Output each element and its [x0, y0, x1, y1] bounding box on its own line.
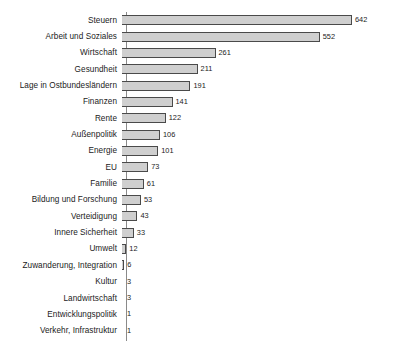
- bar-category-label: Landwirtschaft: [0, 294, 122, 303]
- bar-value-label: 3: [122, 294, 131, 302]
- bar-track: 1: [122, 306, 393, 322]
- bar-category-label: Entwicklungspolitik: [0, 310, 122, 319]
- bar-row: Familie61: [0, 175, 393, 191]
- bar-value-label: 6: [124, 261, 131, 269]
- bar: [122, 130, 160, 140]
- bar-track: 211: [122, 61, 393, 77]
- bar-value-label: 53: [141, 196, 152, 204]
- bar-track: 53: [122, 192, 393, 208]
- bar: [122, 97, 173, 107]
- bar-row: Landwirtschaft3: [0, 290, 393, 306]
- bar-category-label: Lage in Ostbundesländern: [0, 81, 122, 90]
- bar-category-label: Verteidigung: [0, 212, 122, 221]
- bar-category-label: Innere Sicherheit: [0, 228, 122, 237]
- bar-category-label: Wirtschaft: [0, 48, 122, 57]
- bar-category-label: Steuern: [0, 16, 122, 25]
- bar-track: 12: [122, 241, 393, 257]
- bar: [122, 228, 134, 238]
- bar-value-label: 141: [173, 98, 188, 106]
- bar-row: Entwicklungspolitik1: [0, 306, 393, 322]
- bar: [122, 48, 216, 58]
- bar-row: Finanzen141: [0, 94, 393, 110]
- bar-value-label: 1: [122, 327, 131, 335]
- bar-value-label: 61: [144, 180, 155, 188]
- bar-row: Lage in Ostbundesländern191: [0, 77, 393, 93]
- bar-track: 552: [122, 28, 393, 44]
- bar-track: 141: [122, 94, 393, 110]
- bar-category-label: Familie: [0, 179, 122, 188]
- bar: [122, 195, 141, 205]
- bar-track: 43: [122, 208, 393, 224]
- bar-row: Bildung und Forschung53: [0, 192, 393, 208]
- bar-row-list: Steuern642Arbeit und Soziales552Wirtscha…: [0, 12, 393, 339]
- bar-value-label: 261: [216, 49, 231, 57]
- bar-row: Umwelt12: [0, 241, 393, 257]
- bar-row: EU73: [0, 159, 393, 175]
- bar: [122, 162, 148, 172]
- bar-chart-plot-area: Steuern642Arbeit und Soziales552Wirtscha…: [0, 12, 393, 339]
- bar-category-label: Energie: [0, 146, 122, 155]
- bar-value-label: 1: [122, 310, 131, 318]
- bar: [122, 64, 198, 74]
- bar-track: 33: [122, 224, 393, 240]
- bar-category-label: Zuwanderung, Integration: [0, 261, 122, 270]
- bar-category-label: Verkehr, Infrastruktur: [0, 326, 122, 335]
- bar-category-label: Gesundheit: [0, 65, 122, 74]
- bar-category-label: Rente: [0, 114, 122, 123]
- bar: [122, 32, 320, 42]
- bar-row: Innere Sicherheit33: [0, 224, 393, 240]
- bar-row: Gesundheit211: [0, 61, 393, 77]
- bar-row: Zuwanderung, Integration6: [0, 257, 393, 273]
- bar-category-label: Außenpolitik: [0, 130, 122, 139]
- bar-track: 1: [122, 323, 393, 339]
- bar-category-label: Arbeit und Soziales: [0, 32, 122, 41]
- bar-row: Verteidigung43: [0, 208, 393, 224]
- bar-track: 191: [122, 77, 393, 93]
- bar-row: Energie101: [0, 143, 393, 159]
- bar: [122, 15, 352, 25]
- bar-track: 73: [122, 159, 393, 175]
- bar-track: 3: [122, 290, 393, 306]
- bar-track: 261: [122, 45, 393, 61]
- bar-row: Rente122: [0, 110, 393, 126]
- bar-value-label: 73: [148, 163, 159, 171]
- bar-row: Außenpolitik106: [0, 126, 393, 142]
- bar-category-label: Bildung und Forschung: [0, 195, 122, 204]
- bar-value-label: 106: [160, 131, 175, 139]
- bar-value-label: 552: [320, 33, 335, 41]
- bar: [122, 146, 158, 156]
- bar-category-label: EU: [0, 163, 122, 172]
- bar: [122, 211, 137, 221]
- bar-row: Verkehr, Infrastruktur1: [0, 323, 393, 339]
- bar-value-label: 191: [190, 82, 205, 90]
- bar-category-label: Umwelt: [0, 244, 122, 253]
- bar-value-label: 211: [198, 65, 213, 73]
- bar-value-label: 12: [126, 245, 137, 253]
- bar-value-label: 122: [166, 114, 181, 122]
- bar-category-label: Kultur: [0, 277, 122, 286]
- bar-track: 6: [122, 257, 393, 273]
- bar-track: 61: [122, 175, 393, 191]
- bar-value-label: 101: [158, 147, 173, 155]
- bar-row: Steuern642: [0, 12, 393, 28]
- bar-value-label: 642: [352, 16, 367, 24]
- bar-track: 106: [122, 126, 393, 142]
- bar-category-label: Finanzen: [0, 97, 122, 106]
- bar-track: 122: [122, 110, 393, 126]
- bar-row: Wirtschaft261: [0, 45, 393, 61]
- bar: [122, 113, 166, 123]
- bar-row: Arbeit und Soziales552: [0, 28, 393, 44]
- bar-value-label: 33: [134, 229, 145, 237]
- bar: [122, 179, 144, 189]
- bar-chart-figure: Steuern642Arbeit und Soziales552Wirtscha…: [0, 0, 393, 349]
- bar: [122, 81, 190, 91]
- bar-track: 101: [122, 143, 393, 159]
- bar-value-label: 43: [137, 212, 148, 220]
- bar-track: 3: [122, 274, 393, 290]
- bar-track: 642: [122, 12, 393, 28]
- bar-row: Kultur3: [0, 274, 393, 290]
- bar-value-label: 3: [122, 278, 131, 286]
